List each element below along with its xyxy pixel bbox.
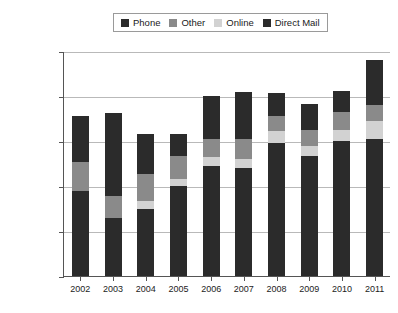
bar-2004 — [137, 134, 154, 276]
legend-swatch-icon — [169, 19, 177, 27]
bar-segment-online — [333, 130, 350, 141]
x-axis-tick-label: 2003 — [103, 285, 123, 294]
bar-segment-phone — [235, 92, 252, 139]
x-axis-tick-mark — [178, 276, 179, 281]
x-axis-tick-label: 2004 — [136, 285, 156, 294]
bar-2009 — [301, 104, 318, 276]
bar-segment-phone — [366, 60, 383, 105]
bar-segment-phone — [137, 134, 154, 175]
x-axis-tick-mark — [375, 276, 376, 281]
bar-segment-other — [105, 196, 122, 218]
bar-segment-online — [366, 121, 383, 139]
legend-entry-phone: Phone — [121, 18, 160, 28]
bar-2006 — [203, 96, 220, 276]
legend-entry-other: Other — [169, 18, 205, 28]
bar-segment-other — [366, 105, 383, 121]
bar-segment-direct-mail — [72, 191, 89, 277]
bar-segment-direct-mail — [105, 218, 122, 277]
bar-segment-online — [235, 159, 252, 168]
y-axis-tick-mark — [59, 142, 64, 143]
bar-segment-online — [170, 179, 187, 186]
stacked-bar-chart: PhoneOtherOnlineDirect Mail 050,000100,0… — [0, 0, 398, 313]
legend-label: Online — [226, 18, 253, 28]
bar-2011 — [366, 60, 383, 276]
x-axis-tick-mark — [146, 276, 147, 281]
x-axis-tick-mark — [309, 276, 310, 281]
x-axis-tick-label: 2006 — [201, 285, 221, 294]
bar-2005 — [170, 134, 187, 276]
bar-segment-online — [203, 157, 220, 166]
bar-2007 — [235, 92, 252, 276]
x-axis-tick-mark — [244, 276, 245, 281]
legend-swatch-icon — [121, 19, 129, 27]
bar-segment-direct-mail — [333, 141, 350, 276]
bar-segment-direct-mail — [301, 156, 318, 276]
x-axis-tick-label: 2002 — [70, 285, 90, 294]
x-axis-tick-mark — [113, 276, 114, 281]
bar-2003 — [105, 113, 122, 276]
bar-segment-other — [301, 130, 318, 145]
x-axis-tick-label: 2007 — [234, 285, 254, 294]
x-axis-tick-mark — [342, 276, 343, 281]
legend-label: Direct Mail — [275, 18, 320, 28]
bar-segment-other — [203, 139, 220, 157]
bar-segment-phone — [301, 104, 318, 130]
bar-segment-other — [235, 139, 252, 159]
bar-2008 — [268, 93, 285, 276]
bar-segment-other — [170, 156, 187, 179]
y-axis-tick-mark — [59, 187, 64, 188]
y-axis-tick-mark — [59, 97, 64, 98]
x-axis-tick-label: 2011 — [365, 285, 384, 294]
bar-segment-other — [333, 112, 350, 130]
bar-segment-phone — [333, 91, 350, 113]
bar-segment-other — [72, 162, 89, 191]
x-axis-tick-mark — [277, 276, 278, 281]
legend-entry-online: Online — [214, 18, 253, 28]
gridline — [64, 52, 390, 53]
plot-area: 050,000100,000150,000200,000250,00020022… — [63, 52, 390, 277]
bar-segment-direct-mail — [203, 166, 220, 276]
x-axis-tick-label: 2005 — [168, 285, 188, 294]
x-axis-tick-mark — [80, 276, 81, 281]
bar-segment-phone — [105, 113, 122, 196]
bar-segment-phone — [203, 96, 220, 139]
bar-segment-online — [268, 131, 285, 143]
y-axis-tick-mark — [59, 232, 64, 233]
bar-segment-other — [268, 116, 285, 131]
bar-segment-online — [137, 201, 154, 208]
y-axis-tick-mark — [59, 277, 64, 278]
legend-label: Phone — [133, 18, 160, 28]
bar-segment-direct-mail — [235, 168, 252, 276]
bar-segment-phone — [268, 93, 285, 116]
legend-entry-direct-mail: Direct Mail — [263, 18, 320, 28]
bar-segment-direct-mail — [366, 139, 383, 276]
legend-swatch-icon — [214, 19, 222, 27]
bar-2010 — [333, 91, 350, 276]
bar-segment-phone — [72, 116, 89, 162]
legend-label: Other — [181, 18, 205, 28]
bar-segment-phone — [170, 134, 187, 157]
chart-legend: PhoneOtherOnlineDirect Mail — [113, 13, 328, 32]
x-axis-tick-label: 2010 — [332, 285, 352, 294]
x-axis-tick-mark — [211, 276, 212, 281]
x-axis-tick-label: 2009 — [299, 285, 319, 294]
legend-swatch-icon — [263, 19, 271, 27]
bar-segment-online — [301, 146, 318, 157]
bar-segment-direct-mail — [137, 209, 154, 277]
bar-segment-direct-mail — [268, 143, 285, 276]
bar-segment-direct-mail — [170, 186, 187, 276]
bar-2002 — [72, 116, 89, 276]
bar-segment-other — [137, 174, 154, 201]
y-axis-tick-mark — [59, 52, 64, 53]
x-axis-tick-label: 2008 — [267, 285, 287, 294]
